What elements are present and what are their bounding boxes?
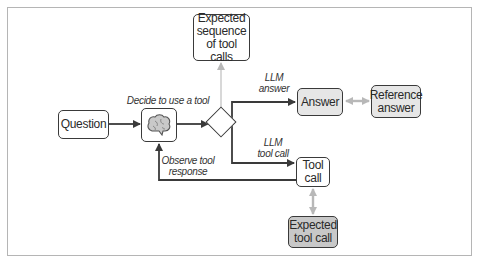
decide-label: Decide to use a tool [120,95,216,106]
llm-tool-call-label-line-1: LLM [248,137,298,148]
llm-answer-label-line-2: answer [254,83,294,94]
expected-tool-call-line-2: tool call [294,232,332,245]
tool-call-line-2: call [305,172,322,185]
expected-sequence-line-1: Expected [198,12,246,25]
expected-sequence-line-3: of tool calls [194,38,249,64]
answer-node: Answer [297,88,343,116]
question-label: Question [61,118,107,131]
tool-call-node: Tool call [296,157,330,187]
brain-icon [146,114,172,136]
llm-answer-label-line-1: LLM [254,72,294,83]
observe-label-line-2: response [161,166,215,177]
llm-tool-call-label: LLM tool call [248,137,298,159]
expected-sequence-node: Expected sequence of tool calls [193,14,250,61]
llm-answer-label: LLM answer [254,72,294,94]
llm-tool-call-label-line-2: tool call [248,148,298,159]
observe-label-line-1: Observe tool [161,155,215,166]
question-node: Question [58,110,109,139]
expected-tool-call-node: Expected tool call [288,216,338,248]
llm-node [141,108,177,142]
reference-answer-node: Reference answer [371,85,421,118]
answer-label: Answer [301,96,339,109]
arrow-decision-to-answer [232,102,295,124]
expected-sequence-line-2: sequence [197,25,247,38]
reference-answer-line-1: Reference [370,89,423,102]
observe-label: Observe tool response [161,155,215,177]
reference-answer-line-2: answer [378,102,415,115]
